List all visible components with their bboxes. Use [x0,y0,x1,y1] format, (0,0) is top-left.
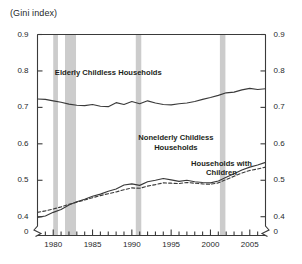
x-axis-label: 2005 [234,240,266,249]
y-axis-label-right: 0.6 [274,139,285,148]
y-axis-label-left: 0 [0,227,29,236]
chart-plot-area [0,0,302,264]
x-axis-label: 1995 [155,240,187,249]
y-axis-label-right: 0.5 [274,175,285,184]
series-label-text: Households [154,143,197,152]
y-axis-label-left: 0.7 [0,102,29,111]
y-axis-label-right: 0.4 [274,212,285,221]
x-axis-label: 1990 [116,240,148,249]
y-axis-label-left: 0.5 [0,175,29,184]
series-annotation-3: Households withChildren [166,159,276,178]
y-axis-label-right: 0 [274,227,278,236]
y-axis-label-right: 0.7 [274,102,285,111]
gini-index-chart: (Gini index) Elderly Childless Household… [0,0,302,264]
y-axis-label-right: 0.9 [274,30,285,39]
left-axis-with-break [34,35,41,237]
chart-axis-title: (Gini index) [10,8,57,18]
y-axis-label-left: 0.6 [0,139,29,148]
series-annotation-1: Elderly Childless Households [53,68,163,78]
series-label-text: Households with [191,159,252,168]
x-axis-label: 1980 [37,240,69,249]
recession-band [53,35,58,236]
x-axis-label: 2000 [194,240,226,249]
y-axis-label-left: 0.4 [0,212,29,221]
x-axis-label: 1985 [77,240,109,249]
series-label-text: Elderly Childless Households [55,68,162,77]
series-label-text: Nonelderly Childless [138,133,213,142]
series-label-text: Children [206,168,237,177]
right-axis-with-break [262,35,269,237]
series-annotation-2: Nonelderly ChildlessHouseholds [121,133,231,152]
y-axis-label-right: 0.8 [274,66,285,75]
y-axis-label-left: 0.9 [0,30,29,39]
y-axis-label-left: 0.8 [0,66,29,75]
